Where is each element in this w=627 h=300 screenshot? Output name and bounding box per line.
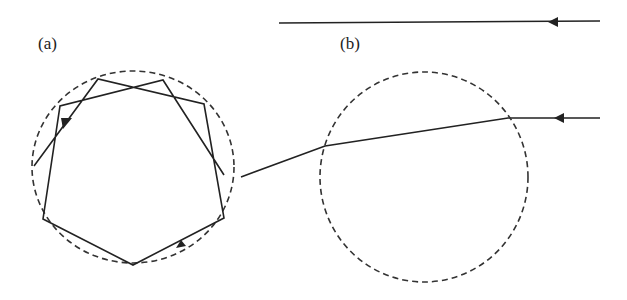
arrow-icon bbox=[548, 17, 558, 27]
dashed-circle-a bbox=[32, 71, 234, 263]
dashed-circle-b bbox=[320, 72, 528, 282]
arrow-icon bbox=[554, 113, 564, 123]
panel-label-b: (b) bbox=[340, 34, 360, 54]
panel-label-a: (a) bbox=[38, 34, 57, 54]
diagram-canvas bbox=[0, 0, 627, 300]
ray-path-a bbox=[34, 79, 224, 265]
panel-a bbox=[32, 71, 234, 265]
ray-path-b bbox=[241, 21, 600, 177]
